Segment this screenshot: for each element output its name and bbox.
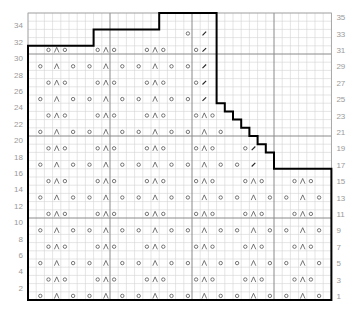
double-decrease-icon: [104, 211, 109, 216]
yarn-over-icon: [145, 245, 148, 248]
yarn-over-icon: [211, 179, 214, 182]
double-decrease-icon: [251, 244, 256, 249]
yarn-over-icon: [121, 163, 124, 166]
yarn-over-icon: [285, 229, 288, 232]
double-decrease-icon: [300, 244, 305, 249]
yarn-over-icon: [96, 48, 99, 51]
double-decrease-icon: [104, 179, 109, 184]
yarn-over-icon: [235, 261, 238, 264]
yarn-over-icon: [244, 179, 247, 182]
double-decrease-icon: [104, 97, 109, 102]
double-decrease-icon: [300, 277, 305, 282]
yarn-over-icon: [145, 212, 148, 215]
yarn-over-icon: [186, 130, 189, 133]
yarn-over-icon: [121, 294, 124, 297]
yarn-over-icon: [219, 196, 222, 199]
yarn-over-icon: [235, 294, 238, 297]
row-label: 26: [14, 87, 23, 96]
row-label: 17: [336, 161, 345, 170]
yarn-over-icon: [63, 114, 66, 117]
yarn-over-icon: [121, 97, 124, 100]
yarn-over-icon: [88, 97, 91, 100]
yarn-over-icon: [244, 212, 247, 215]
yarn-over-icon: [317, 261, 320, 264]
yarn-over-icon: [260, 212, 263, 215]
yarn-over-icon: [194, 81, 197, 84]
double-decrease-icon: [153, 162, 158, 167]
yarn-over-icon: [71, 97, 74, 100]
double-decrease-icon: [153, 195, 158, 200]
yarn-over-icon: [137, 261, 140, 264]
yarn-over-icon: [47, 245, 50, 248]
yarn-over-icon: [47, 48, 50, 51]
yarn-over-icon: [39, 294, 42, 297]
double-decrease-icon: [104, 293, 109, 298]
double-decrease-icon: [54, 113, 59, 118]
row-label: 13: [336, 194, 345, 203]
yarn-over-icon: [211, 147, 214, 150]
yarn-over-icon: [162, 147, 165, 150]
yarn-over-icon: [211, 212, 214, 215]
yarn-over-icon: [88, 196, 91, 199]
yarn-over-icon: [121, 229, 124, 232]
yarn-over-icon: [235, 196, 238, 199]
double-decrease-icon: [251, 277, 256, 282]
double-decrease-icon: [251, 261, 256, 266]
yarn-over-icon: [162, 245, 165, 248]
double-decrease-icon: [54, 277, 59, 282]
decrease-icon: [203, 32, 207, 36]
row-label: 30: [14, 54, 23, 63]
minor-grid: [28, 13, 331, 300]
yarn-over-icon: [88, 65, 91, 68]
yarn-over-icon: [309, 212, 312, 215]
yarn-over-icon: [170, 294, 173, 297]
double-decrease-icon: [153, 211, 158, 216]
yarn-over-icon: [112, 48, 115, 51]
double-decrease-icon: [54, 261, 59, 266]
double-decrease-icon: [202, 228, 207, 233]
yarn-over-icon: [235, 229, 238, 232]
yarn-over-icon: [112, 212, 115, 215]
yarn-over-icon: [186, 196, 189, 199]
double-decrease-icon: [202, 146, 207, 151]
yarn-over-icon: [121, 65, 124, 68]
row-labels-right: 1357911131517192123252729313335: [336, 13, 345, 301]
yarn-over-icon: [244, 245, 247, 248]
double-decrease-icon: [104, 64, 109, 69]
yarn-over-icon: [219, 294, 222, 297]
yarn-over-icon: [71, 196, 74, 199]
double-decrease-icon: [251, 293, 256, 298]
yarn-over-icon: [47, 179, 50, 182]
row-label: 6: [19, 251, 24, 260]
double-decrease-icon: [202, 244, 207, 249]
yarn-over-icon: [219, 163, 222, 166]
double-decrease-icon: [153, 113, 158, 118]
yarn-over-icon: [96, 245, 99, 248]
yarn-over-icon: [88, 229, 91, 232]
yarn-over-icon: [170, 229, 173, 232]
double-decrease-icon: [104, 113, 109, 118]
yarn-over-icon: [293, 212, 296, 215]
yarn-over-icon: [71, 130, 74, 133]
decrease-icon: [203, 65, 207, 69]
yarn-over-icon: [317, 294, 320, 297]
yarn-over-icon: [170, 261, 173, 264]
yarn-over-icon: [112, 147, 115, 150]
yarn-over-icon: [309, 179, 312, 182]
yarn-over-icon: [88, 261, 91, 264]
yarn-over-icon: [47, 147, 50, 150]
yarn-over-icon: [39, 163, 42, 166]
yarn-over-icon: [96, 212, 99, 215]
row-label: 5: [336, 259, 341, 268]
yarn-over-icon: [211, 278, 214, 281]
yarn-over-icon: [112, 81, 115, 84]
double-decrease-icon: [54, 162, 59, 167]
double-decrease-icon: [54, 47, 59, 52]
yarn-over-icon: [112, 114, 115, 117]
yarn-over-icon: [137, 65, 140, 68]
yarn-over-icon: [145, 179, 148, 182]
double-decrease-icon: [54, 179, 59, 184]
row-label: 31: [336, 46, 345, 55]
yarn-over-icon: [162, 179, 165, 182]
yarn-over-icon: [63, 212, 66, 215]
